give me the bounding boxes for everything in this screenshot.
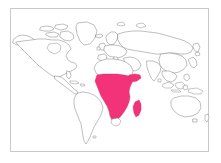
landmass-florida [67,71,71,79]
landmass-ireland [97,47,100,50]
landmass-hispaniola [80,84,85,86]
landmass-south-america [74,92,103,144]
landmass-japan-north [195,52,200,56]
landmass-svalbard [117,22,125,26]
highlight-madagascar [133,100,141,117]
landmass-south-africa-tip [111,118,121,126]
landmass-canadian-arctic-1 [40,26,54,31]
landmass-greenland [76,22,97,45]
highlight-sub-saharan-africa [95,74,141,121]
landmass-sri-lanka [158,79,161,82]
landmass-iceland [96,34,103,38]
highlight-horn-of-africa [129,74,141,82]
landmass-new-guinea [188,88,203,94]
landmass-sulawesi [183,85,188,90]
landmass-novaya-zemlya [136,23,146,28]
landmass-china-east-asia [159,53,187,73]
landmass-kamchatka [193,43,200,52]
landmass-cuba [70,81,79,84]
landmass-java [171,90,181,92]
landmass-baffin-island [60,31,74,41]
landmass-philippines [184,74,190,81]
landmass-russia-siberia [118,31,193,54]
continent-north-america [13,22,97,94]
landmass-central-america [55,76,78,94]
landmass-tasmania [193,119,197,122]
landmass-new-zealand [205,114,209,122]
landmass-australia [171,96,201,117]
world-map-svg [11,9,210,153]
landmass-canadian-arctic-2 [55,24,68,30]
map-frame [10,8,209,152]
continent-australia [171,96,209,122]
landmass-scandinavia [106,32,118,45]
continent-south-america [74,92,103,144]
world-map-figure [0,0,221,163]
landmass-canadian-arctic-3 [46,32,59,37]
landmass-korea-japan [189,57,197,68]
landmass-sumatra [162,82,174,88]
landmass-india [147,61,161,81]
landmass-falklands [93,136,96,138]
